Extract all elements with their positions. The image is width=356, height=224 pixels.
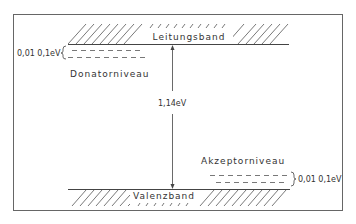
arrow-up-icon bbox=[171, 45, 175, 50]
band-diagram: Leitungsband 0,01 0,1eV Donatorniveau 1,… bbox=[0, 0, 356, 224]
donor-level-label: Donatorniveau bbox=[70, 69, 150, 79]
donor-brace-icon bbox=[61, 46, 66, 59]
arrow-down-icon bbox=[171, 184, 175, 189]
valence-band-label: Valenzband bbox=[133, 191, 195, 201]
donor-range-label: 0,01 0,1eV bbox=[17, 49, 61, 58]
conduction-band-label: Leitungsband bbox=[153, 32, 226, 42]
band-gap-label: 1,14eV bbox=[158, 99, 187, 108]
acceptor-level-label: Akzeptorniveau bbox=[201, 156, 285, 166]
acceptor-range-label: 0,01 0,1eV bbox=[298, 175, 342, 184]
acceptor-brace-icon bbox=[291, 172, 296, 186]
diagram-frame bbox=[14, 15, 343, 211]
